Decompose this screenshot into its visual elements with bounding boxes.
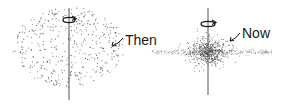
then-label: Then [125, 32, 157, 48]
then-cloud: Then [13, 8, 157, 100]
then-pointer-arrow-icon [112, 38, 123, 46]
now-pointer-arrow-icon [230, 33, 240, 41]
diagram-canvas: Then Now [0, 0, 286, 109]
now-label: Now [242, 25, 271, 41]
then-star-dots [13, 8, 123, 88]
galaxy-collapse-diagram: Then Now [0, 0, 286, 109]
now-disk: Now [152, 8, 273, 95]
